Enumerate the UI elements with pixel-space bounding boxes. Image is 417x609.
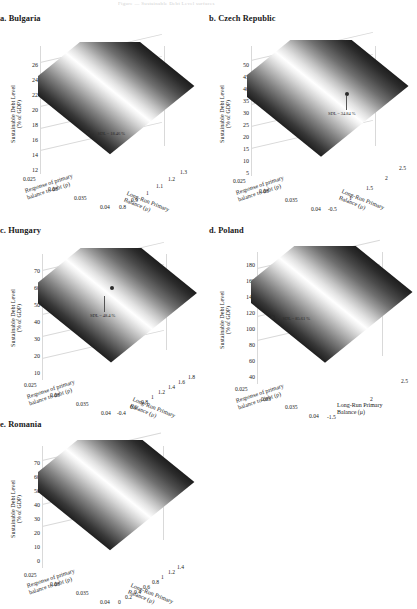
- z-tick: 0.8: [152, 579, 159, 585]
- sdl-leader-czech-republic: [346, 96, 347, 110]
- sdl-marker-hungary: [110, 286, 114, 290]
- y-axis-caption-line2: (% of GDP): [225, 274, 232, 366]
- panel-bulgaria: a. Bulgaria Sustainable Debt Level (% of…: [0, 14, 208, 226]
- y-axis-caption-hungary: Sustainable Debt Level (% of GDP): [9, 272, 24, 364]
- sdl-marker-poland: [271, 315, 275, 319]
- z-axis-caption-poland: Long-Run Primary Balance (μ): [337, 402, 383, 416]
- z-tick: 1.2: [168, 569, 175, 575]
- sdl-annotation-hungary: SDL = 48.4 %: [90, 313, 115, 318]
- y-ticks-bulgaria: 26 24 22 20 18 16 14 12: [24, 62, 38, 172]
- panel-title-czech-republic: b. Czech Republic: [209, 14, 417, 23]
- page-header-fragment: Figure — Sustainable Debt Level surfaces: [118, 1, 378, 11]
- y-axis-caption-romania: Sustainable Debt Level (% of GDP): [9, 464, 24, 554]
- x-tick: 0.025: [23, 176, 36, 182]
- z-tick: 1.1: [156, 183, 163, 189]
- z-tick: 0: [118, 599, 121, 605]
- z-tick: 1.5: [366, 185, 373, 191]
- x-tick: 0.035: [285, 404, 298, 410]
- y-axis-caption-czech-republic: Sustainable Debt Level (% of GDP): [218, 68, 233, 160]
- x-tick: 0.035: [76, 401, 89, 407]
- z-tick: -0.4: [117, 410, 126, 416]
- x-tick: 0.035: [76, 590, 89, 596]
- plot-hungary: Sustainable Debt Level (% of GDP) 70 60 …: [0, 238, 208, 426]
- z-tick: 0.8: [119, 204, 126, 210]
- y-axis-caption-line2: (% of GDP): [16, 272, 23, 364]
- y-axis-caption-line1: Sustainable Debt Level: [218, 85, 225, 143]
- z-tick: 1.3: [180, 169, 187, 175]
- x-tick: 0.04: [100, 204, 110, 210]
- sdl-marker-bulgaria: [86, 130, 90, 134]
- z-tick: 1: [161, 574, 164, 580]
- z-tick: -0.5: [328, 206, 337, 212]
- z-axis-caption-czech-republic: Long-Run Primary Balance (μ): [338, 188, 385, 218]
- z-axis-caption-romania: Long-Run Primary Balance (μ): [127, 582, 174, 609]
- surface-romania: [38, 440, 200, 578]
- x-tick: 0.025: [24, 382, 37, 388]
- panel-hungary: c. Hungary Sustainable Debt Level (% of …: [0, 226, 208, 426]
- y-axis-caption-line1: Sustainable Debt Level: [9, 289, 16, 347]
- z-tick: 1: [146, 190, 149, 196]
- plot-czech-republic: Sustainable Debt Level (% of GDP) 50 45 …: [209, 28, 417, 226]
- plot-romania: Sustainable Debt Level (% of GDP) 70 60 …: [0, 432, 230, 584]
- y-axis-caption-poland: Sustainable Debt Level (% of GDP): [218, 274, 233, 366]
- sdl-annotation-czech-republic: SDL = 34.84 %: [328, 111, 355, 116]
- y-axis-caption-line2: (% of GDP): [16, 68, 23, 160]
- x-tick: 0.04: [100, 599, 110, 605]
- x-tick: 0.04: [101, 410, 111, 416]
- z-tick: 1.4: [177, 564, 184, 570]
- panel-title-romania: e. Romania: [0, 420, 230, 429]
- sdl-annotation-poland: SDL = 85.61 %: [277, 316, 310, 321]
- panel-title-hungary: c. Hungary: [0, 226, 208, 235]
- x-tick: 0.035: [285, 197, 298, 203]
- panel-title-bulgaria: a. Bulgaria: [0, 14, 208, 23]
- surface-bulgaria: [38, 42, 198, 182]
- z-tick: 1.8: [188, 374, 195, 380]
- panel-czech-republic: b. Czech Republic Sustainable Debt Level…: [209, 14, 417, 226]
- z-tick: 1.4: [168, 384, 175, 390]
- z-tick: 1: [151, 394, 154, 400]
- x-tick: 0.035: [74, 195, 87, 201]
- z-tick: 1.2: [168, 176, 175, 182]
- z-tick: 1.6: [178, 379, 185, 385]
- y-axis-caption-line1: Sustainable Debt Level: [218, 291, 225, 349]
- y-axis-caption-line2: (% of GDP): [225, 68, 232, 160]
- x-tick: 0.04: [309, 413, 319, 419]
- x-tick: 0.025: [233, 178, 246, 184]
- y-axis-caption-line2: (% of GDP): [16, 464, 23, 554]
- z-tick: 1.2: [158, 389, 165, 395]
- plot-bulgaria: Sustainable Debt Level (% of GDP) 26 24 …: [0, 28, 208, 226]
- z-axis-caption-line1: Long-Run Primary: [337, 402, 383, 408]
- sdl-leader-hungary: [104, 296, 105, 312]
- x-tick: 0.025: [235, 386, 248, 392]
- z-tick: 2: [385, 175, 388, 181]
- y-axis-caption-line1: Sustainable Debt Level: [9, 480, 16, 538]
- z-tick: 2.5: [399, 165, 406, 171]
- z-tick: 2.5: [401, 378, 408, 384]
- z-tick: -1.5: [327, 414, 336, 420]
- plot-poland: Sustainable Debt Level (% of GDP) 180 16…: [209, 238, 417, 426]
- y-axis-caption-bulgaria: Sustainable Debt Level (% of GDP): [9, 68, 24, 160]
- panel-poland: d. Poland Sustainable Debt Level (% of G…: [209, 226, 417, 426]
- panel-title-poland: d. Poland: [209, 226, 417, 235]
- z-axis-caption-line2: Balance (μ): [337, 409, 365, 415]
- panel-romania: e. Romania Sustainable Debt Level (% of …: [0, 420, 230, 584]
- x-tick: 0.04: [311, 206, 321, 212]
- surface-hungary: [38, 248, 202, 390]
- x-tick: 0.025: [24, 572, 37, 578]
- sdl-annotation-bulgaria: SDL = 18.46 %: [92, 131, 125, 136]
- y-axis-caption-line1: Sustainable Debt Level: [9, 85, 16, 143]
- surface-poland: [251, 246, 417, 392]
